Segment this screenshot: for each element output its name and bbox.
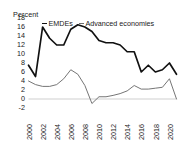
series-line-emdes: [29, 25, 177, 77]
plot-area: [0, 0, 181, 146]
data-series-group: [29, 25, 177, 104]
chart-figure: Percent 181614121086420-2 20002002200420…: [0, 0, 181, 146]
series-line-advanced-economies: [29, 70, 177, 104]
